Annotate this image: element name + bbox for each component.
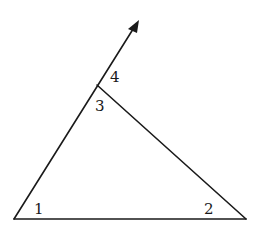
angle-4-label: 4: [110, 68, 120, 86]
angle-1-label: 1: [34, 200, 44, 218]
triangle-right-side: [97, 85, 246, 219]
angle-2-label: 2: [204, 200, 214, 218]
arrowhead-icon: [128, 20, 139, 33]
extended-side-ray: [14, 26, 135, 219]
triangle-diagram: 4 3 1 2: [0, 0, 258, 228]
angle-3-label: 3: [95, 97, 105, 115]
